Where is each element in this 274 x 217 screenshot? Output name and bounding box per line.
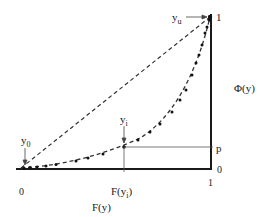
arrows	[23, 15, 207, 165]
sample-points	[23, 15, 213, 170]
label-right-bottom-0: 0	[217, 164, 222, 175]
label-bottom-right-1: 1	[208, 177, 213, 188]
label-y-u: yu	[172, 11, 182, 26]
label-p: p	[216, 142, 222, 154]
label-y-0: y0	[21, 134, 31, 149]
diagram-canvas: yu 1 Φ(y) p 0 1 0 y0 yi F(yi) F(y)	[0, 0, 274, 217]
label-right-top-1: 1	[216, 11, 222, 23]
label-y-i: yi	[120, 113, 129, 128]
label-phi-y: Φ(y)	[234, 82, 255, 95]
label-bottom-left-0: 0	[19, 186, 24, 197]
label-f-yi: F(yi)	[111, 185, 133, 200]
label-f-y-axis-title: F(y)	[92, 201, 111, 214]
